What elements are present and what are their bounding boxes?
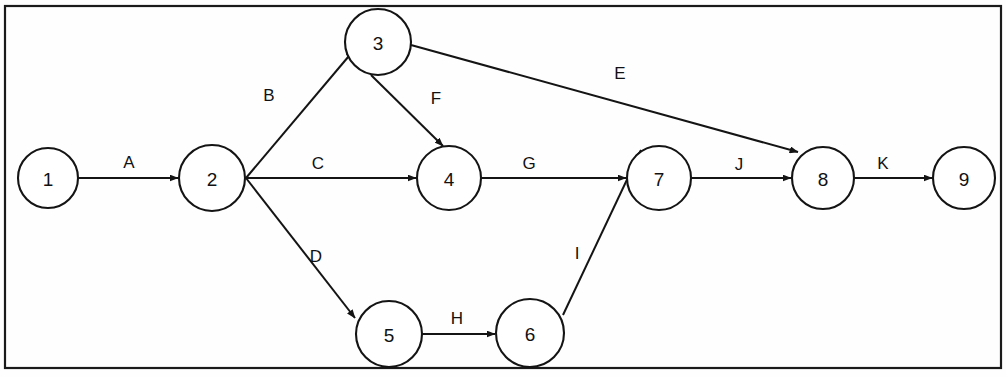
- edge-label-d: D: [310, 247, 322, 266]
- nodes-layer: 123456789: [18, 9, 995, 367]
- node-5[interactable]: 5: [356, 301, 422, 367]
- node-label-9: 9: [959, 169, 970, 190]
- node-2[interactable]: 2: [179, 145, 245, 211]
- edge-e: E: [411, 45, 798, 152]
- network-diagram: ABCDEFGHIJK 123456789: [0, 0, 1006, 377]
- edge-h: H: [422, 309, 495, 335]
- edge-f: F: [371, 75, 443, 146]
- edge-g: G: [482, 154, 626, 179]
- node-label-6: 6: [525, 324, 536, 345]
- node-label-4: 4: [444, 169, 455, 190]
- node-8[interactable]: 8: [792, 147, 854, 209]
- node-label-5: 5: [384, 325, 395, 346]
- edge-label-f: F: [431, 89, 441, 108]
- edge-k: K: [855, 154, 932, 179]
- edge-line-d: [246, 178, 355, 318]
- edge-d: D: [246, 178, 355, 318]
- node-label-7: 7: [654, 169, 665, 190]
- edge-a: A: [79, 153, 178, 179]
- node-label-8: 8: [818, 169, 829, 190]
- node-3[interactable]: 3: [345, 9, 411, 75]
- edge-label-i: I: [575, 244, 580, 263]
- node-7[interactable]: 7: [627, 146, 691, 210]
- node-label-3: 3: [373, 33, 384, 54]
- edge-line-f: [371, 75, 443, 146]
- edge-label-g: G: [522, 154, 535, 173]
- diagram-canvas: ABCDEFGHIJK 123456789: [0, 0, 1006, 377]
- edge-line-e: [411, 45, 798, 152]
- edge-label-j: J: [735, 155, 744, 174]
- edge-j: J: [691, 155, 791, 179]
- edge-label-b: B: [263, 86, 274, 105]
- node-6[interactable]: 6: [496, 299, 564, 367]
- edge-line-b: [246, 50, 354, 178]
- edge-label-a: A: [123, 153, 135, 172]
- node-label-2: 2: [207, 169, 218, 190]
- node-1[interactable]: 1: [18, 148, 78, 208]
- node-4[interactable]: 4: [417, 146, 481, 210]
- edge-label-e: E: [614, 64, 625, 83]
- node-label-1: 1: [43, 169, 54, 190]
- edge-c: C: [246, 154, 416, 179]
- edge-label-h: H: [451, 309, 463, 328]
- edge-label-c: C: [312, 154, 324, 173]
- edge-b: B: [246, 50, 354, 178]
- node-9[interactable]: 9: [933, 147, 995, 209]
- edge-label-k: K: [877, 154, 889, 173]
